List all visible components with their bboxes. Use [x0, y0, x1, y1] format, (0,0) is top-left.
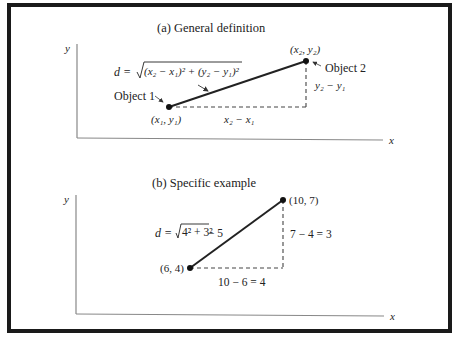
- panel-a-y-label: y: [64, 42, 70, 54]
- panel-a-x-label: x: [388, 134, 394, 146]
- panel-a-object-1-label: Object 1: [114, 89, 155, 103]
- panel-a-title: (a) General definition: [157, 21, 266, 35]
- panel-a-object-1-pointer-icon: [155, 96, 163, 102]
- panel-a-object-2-coords: (x₂, y₂): [290, 43, 321, 56]
- panel-b-point-2-coords: (10, 7): [289, 194, 319, 207]
- panel-b-vertical-leg-label: 7 − 4 = 3: [290, 228, 332, 240]
- distance-diagram: (a) General definition y x d = (x₂ − x₁)…: [0, 0, 458, 339]
- panel-b-y-label: y: [63, 193, 69, 205]
- panel-b-point-10-7: [280, 197, 286, 203]
- panel-b-title: (b) Specific example: [152, 176, 257, 190]
- panel-b-x-label: x: [389, 310, 395, 322]
- panel-a-horizontal-leg-label: x₂ − x₁: [223, 113, 255, 125]
- panel-a-object-1-coords: (x₁, y₁): [151, 113, 182, 126]
- panel-a-object-2-label: Object 2: [325, 61, 366, 75]
- panel-b-point-6-4: [187, 265, 193, 271]
- panel-b-point-1-coords: (6, 4): [160, 262, 184, 275]
- panel-general-definition: (a) General definition y x d = (x₂ − x₁)…: [64, 21, 394, 146]
- panel-a-object-2-point: [303, 58, 309, 64]
- panel-b-formula-prefix: d =: [155, 226, 172, 240]
- panel-b-x-axis: [76, 314, 384, 316]
- panel-b-formula-suffix: − 5: [208, 227, 223, 239]
- panel-a-object-1-point: [166, 104, 172, 110]
- panel-specific-example: (b) Specific example y x d = 4² + 3² − 5…: [63, 176, 395, 322]
- panel-b-horizontal-leg-label: 10 − 6 = 4: [218, 276, 266, 288]
- panel-a-formula-radicand: (x₂ − x₁)² + (y₂ − y₁)²: [144, 65, 240, 78]
- panel-a-x-axis: [77, 138, 383, 140]
- panel-a-formula-prefix: d =: [114, 65, 131, 79]
- panel-a-vertical-leg-label: y₂ − y₁: [314, 79, 346, 91]
- panel-a-object-2-pointer-icon: [313, 62, 321, 66]
- panel-a-formula-pointer-icon: [198, 85, 208, 91]
